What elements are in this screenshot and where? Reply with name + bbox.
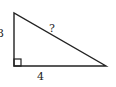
right-triangle-diagram: 3 ? 4 — [0, 0, 116, 87]
triangle-shape — [14, 13, 106, 66]
horizontal-leg-label: 4 — [37, 70, 44, 83]
right-angle-marker — [14, 59, 21, 66]
vertical-leg-label: 3 — [0, 27, 4, 40]
hypotenuse-label: ? — [49, 22, 55, 35]
